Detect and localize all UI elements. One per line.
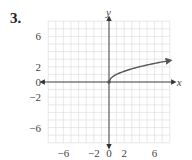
x-tick-label: 2 [121,147,127,159]
y-tick-label: 0 [36,76,42,88]
y-tick-label: 6 [36,30,42,42]
y-tick-label: 2 [36,61,42,73]
x-axis-label: x [176,76,182,88]
y-axis-label: y [105,6,111,18]
x-tick-label: −6 [58,147,70,159]
x-tick-label: 0 [106,147,112,159]
x-tick-label: 6 [152,147,158,159]
start-point [107,80,111,84]
y-tick-label: −6 [29,122,41,134]
function-graph: xy −6−2026620−2−6 [0,0,192,160]
x-tick-label: −2 [88,147,100,159]
y-tick-label: −2 [29,91,41,103]
